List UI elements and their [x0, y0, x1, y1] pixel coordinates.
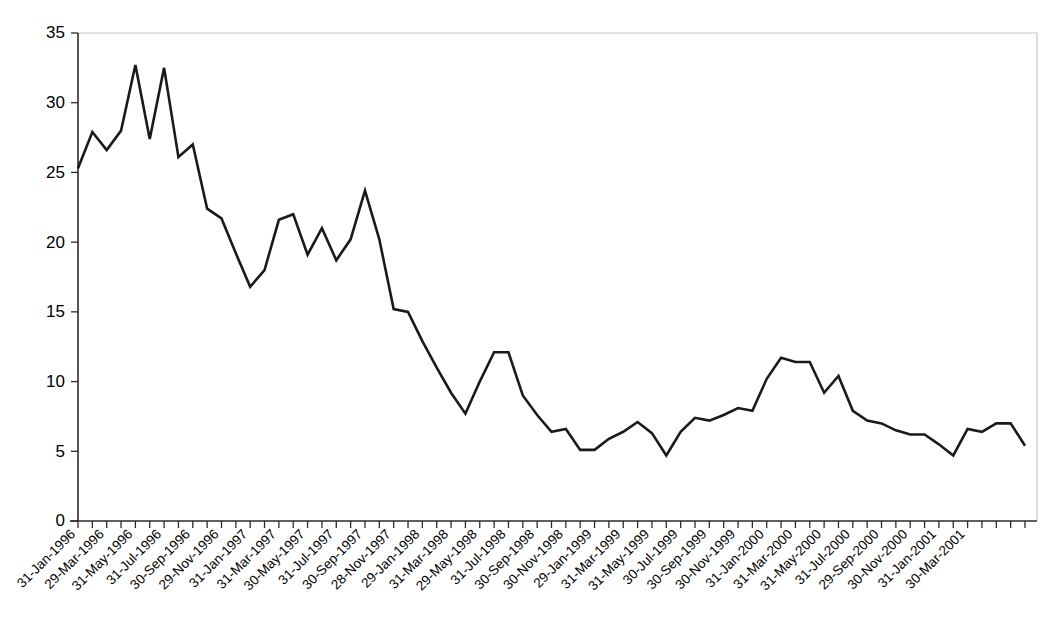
plot-border — [78, 33, 1037, 521]
y-tick-label: 35 — [46, 23, 65, 42]
line-chart: 05101520253035 31-Jan-199629-Mar-199631-… — [0, 0, 1060, 639]
y-tick-label: 20 — [46, 233, 65, 252]
y-axis-ticks: 05101520253035 — [46, 23, 78, 530]
series-line — [78, 65, 1025, 455]
x-axis-tick-labels: 31-Jan-199629-Mar-199631-May-199631-Jul-… — [14, 527, 968, 594]
data-series — [78, 65, 1025, 455]
chart-screenshot: 05101520253035 31-Jan-199629-Mar-199631-… — [0, 0, 1060, 639]
plot-frame — [78, 33, 1037, 521]
y-tick-label: 25 — [46, 163, 65, 182]
y-tick-label: 30 — [46, 93, 65, 112]
y-tick-label: 15 — [46, 302, 65, 321]
y-tick-label: 10 — [46, 372, 65, 391]
y-tick-label: 5 — [56, 442, 65, 461]
y-tick-label: 0 — [56, 511, 65, 530]
x-axis-ticks — [78, 521, 1025, 528]
